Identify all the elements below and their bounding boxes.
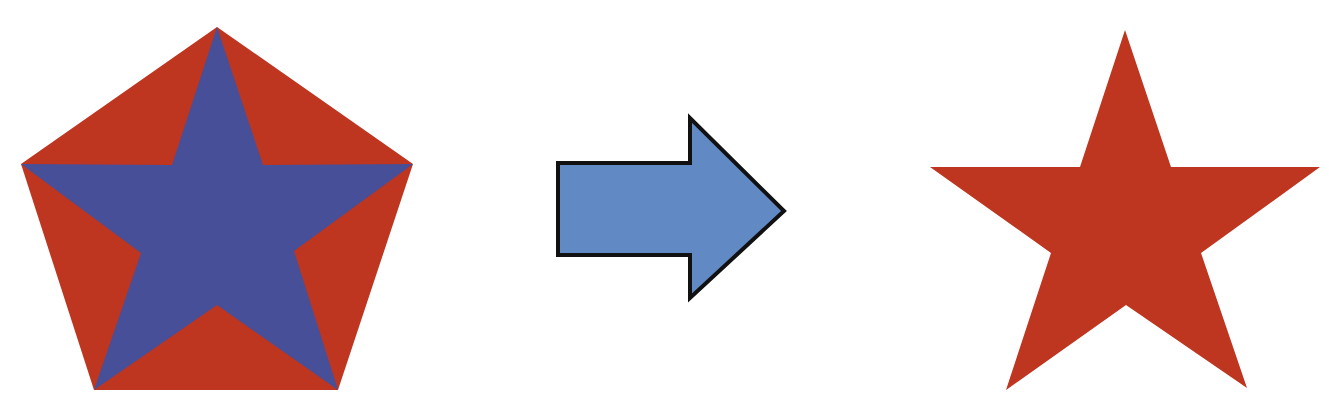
right-arrow-icon — [558, 118, 784, 298]
result-star-shape — [930, 30, 1320, 390]
diagram-canvas — [0, 0, 1329, 409]
